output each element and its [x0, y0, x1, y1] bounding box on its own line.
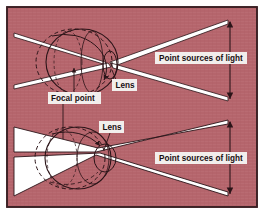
- eye-optics-diagram-svg: Point sources of light Lens Focal point: [0, 0, 264, 214]
- label-point-sources-top: Point sources of light: [155, 52, 247, 64]
- label-lens-top-text: Lens: [116, 81, 136, 90]
- label-point-sources-top-text: Point sources of light: [159, 54, 243, 63]
- label-point-sources-bottom-text: Point sources of light: [159, 154, 243, 163]
- label-focal-point: Focal point: [48, 92, 101, 104]
- diagram-figure: Point sources of light Lens Focal point: [0, 0, 264, 214]
- label-lens-bottom: Lens: [99, 121, 124, 133]
- label-lens-bottom-text: Lens: [103, 123, 123, 132]
- label-focal-point-text: Focal point: [51, 94, 95, 103]
- label-point-sources-bottom: Point sources of light: [155, 152, 247, 164]
- label-lens-top: Lens: [112, 79, 137, 91]
